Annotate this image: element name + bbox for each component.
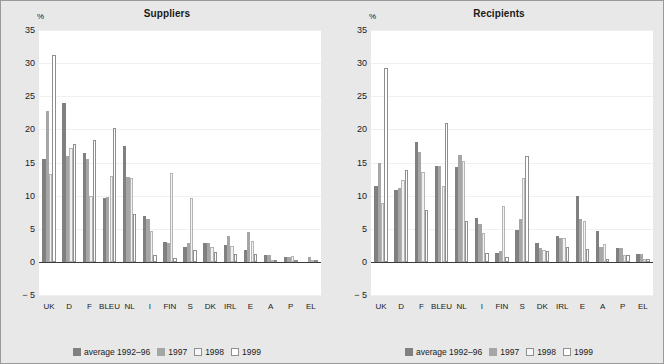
gridline — [371, 63, 653, 64]
bar — [505, 257, 508, 262]
gridline — [39, 295, 321, 296]
x-axis-tick-label: I — [481, 302, 483, 311]
x-axis-tick-label: DK — [205, 302, 216, 311]
y-axis-tick-label: − 5 — [341, 290, 367, 300]
x-axis-tick-label: EL — [306, 302, 316, 311]
legend-item: 1998 — [194, 347, 224, 357]
x-axis-tick-label: P — [288, 302, 293, 311]
gridline — [371, 96, 653, 97]
x-axis-tick-label: UK — [44, 302, 55, 311]
x-axis-tick-label: NL — [125, 302, 135, 311]
y-axis-tick-label: 20 — [341, 124, 367, 134]
gridline — [371, 129, 653, 130]
chart-panel-recipients: Recipients % 35302520151050− 5UKDFBLEUNL… — [333, 1, 664, 364]
y-axis-tick-label: 5 — [341, 224, 367, 234]
bar — [586, 249, 589, 262]
chart-title-recipients: Recipients — [333, 8, 664, 19]
gridline — [39, 30, 321, 31]
x-axis-tick-label: S — [187, 302, 192, 311]
plot-area-recipients — [371, 30, 653, 295]
legend-item: 1998 — [526, 347, 556, 357]
bar — [445, 123, 448, 261]
gridline — [371, 196, 653, 197]
y-axis-tick-label: 10 — [9, 191, 35, 201]
x-axis-tick-label: NL — [457, 302, 467, 311]
bar — [254, 254, 257, 262]
legend-label: 1999 — [574, 347, 593, 357]
legend-swatch — [157, 348, 165, 356]
bar — [73, 144, 76, 262]
bar — [384, 68, 387, 261]
gridline — [371, 163, 653, 164]
legend-item: 1999 — [231, 347, 261, 357]
legend-recipients: average 1992–96199719981999 — [333, 347, 664, 357]
gridline — [39, 129, 321, 130]
legend-suppliers: average 1992–96199719981999 — [1, 347, 333, 357]
bar — [133, 214, 136, 262]
x-axis-tick-label: S — [519, 302, 524, 311]
gridline — [39, 229, 321, 230]
bar — [626, 255, 629, 262]
bar — [405, 170, 408, 262]
legend-item: 1999 — [563, 347, 593, 357]
legend-swatch — [526, 348, 534, 356]
legend-label: 1999 — [242, 347, 261, 357]
legend-swatch — [489, 348, 497, 356]
legend-label: average 1992–96 — [84, 347, 150, 357]
bar — [93, 140, 96, 262]
bar — [170, 173, 173, 262]
bar — [546, 251, 549, 262]
y-axis-tick-label: 25 — [9, 91, 35, 101]
legend-label: 1997 — [168, 347, 187, 357]
bar — [52, 55, 55, 262]
legend-swatch — [194, 348, 202, 356]
y-axis-unit-label-left: % — [37, 12, 44, 21]
gridline — [371, 229, 653, 230]
bar — [214, 252, 217, 262]
gridline — [371, 30, 653, 31]
legend-label: average 1992–96 — [416, 347, 482, 357]
y-axis-tick-label: 30 — [9, 58, 35, 68]
bar — [566, 247, 569, 262]
y-axis-tick-label: 10 — [341, 191, 367, 201]
legend-item: average 1992–96 — [73, 347, 150, 357]
y-axis-tick-label: 0 — [9, 257, 35, 267]
bar — [294, 260, 297, 262]
x-axis-tick-label: EL — [638, 302, 648, 311]
x-axis-tick-label: A — [268, 302, 273, 311]
bar — [502, 206, 505, 262]
legend-item: 1997 — [489, 347, 519, 357]
legend-swatch — [563, 348, 571, 356]
x-axis-tick-label: E — [580, 302, 585, 311]
chart-title-suppliers: Suppliers — [1, 8, 333, 19]
legend-label: 1997 — [500, 347, 519, 357]
zero-baseline — [39, 262, 321, 263]
legend-item: 1997 — [157, 347, 187, 357]
gridline — [39, 196, 321, 197]
y-axis-tick-label: 15 — [9, 158, 35, 168]
plot-area-suppliers — [39, 30, 321, 295]
gridline — [39, 63, 321, 64]
y-axis-unit-label-right: % — [369, 12, 376, 21]
x-axis-tick-label: IRL — [224, 302, 236, 311]
gridline — [39, 96, 321, 97]
x-axis-tick-label: A — [600, 302, 605, 311]
chart-figure: Suppliers % 35302520151050− 5UKDFBLEUNLI… — [0, 0, 664, 364]
x-axis-tick-label: IRL — [556, 302, 568, 311]
bar — [193, 250, 196, 262]
x-axis-tick-label: E — [248, 302, 253, 311]
legend-swatch — [405, 348, 413, 356]
y-axis-tick-label: 25 — [341, 91, 367, 101]
bar — [234, 254, 237, 262]
legend-swatch — [231, 348, 239, 356]
x-axis-tick-label: BLEU — [99, 302, 120, 311]
bar — [485, 253, 488, 262]
bar — [173, 258, 176, 262]
legend-label: 1998 — [537, 347, 556, 357]
bar — [425, 210, 428, 262]
x-axis-tick-label: BLEU — [431, 302, 452, 311]
y-axis-tick-label: 5 — [9, 224, 35, 234]
bar — [465, 221, 468, 262]
y-axis-tick-label: − 5 — [9, 290, 35, 300]
x-axis-tick-label: FIN — [495, 302, 508, 311]
